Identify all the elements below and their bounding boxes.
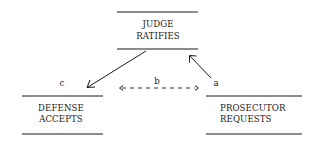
node-defense-accepts: DEFENSE ACCEPTS <box>22 96 103 134</box>
edge-a-line <box>190 56 211 78</box>
defense-label-line2: ACCEPTS <box>38 114 83 124</box>
edge-a: a <box>190 56 219 89</box>
node-prosecutor-requests: PROSECUTOR REQUESTS <box>206 96 302 134</box>
node-judge-ratifies: JUDGE RATIFIES <box>117 12 198 49</box>
edge-c-line <box>88 51 146 87</box>
edge-b-right-arrowhead-icon <box>195 86 199 91</box>
edge-a-label: a <box>213 78 218 88</box>
diagram-canvas: JUDGE RATIFIES DEFENSE ACCEPTS PROSECUTO… <box>0 0 319 143</box>
judge-label-line1: JUDGE <box>141 19 173 29</box>
edge-c: c <box>60 51 146 88</box>
edge-b: b <box>120 76 199 91</box>
defense-label-line1: DEFENSE <box>38 103 84 113</box>
edge-b-label: b <box>154 76 160 86</box>
prosecutor-label-line1: PROSECUTOR <box>220 103 286 113</box>
prosecutor-label-line2: REQUESTS <box>220 114 272 124</box>
edge-c-label: c <box>60 78 65 88</box>
judge-label-line2: RATIFIES <box>136 31 180 41</box>
